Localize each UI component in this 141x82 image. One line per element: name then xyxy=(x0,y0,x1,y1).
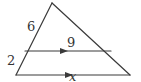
label-lower-left-side: 2 xyxy=(7,54,15,67)
label-base: x xyxy=(69,70,76,82)
left-side xyxy=(16,3,52,75)
right-side xyxy=(52,3,130,75)
label-upper-left-side: 6 xyxy=(27,20,35,33)
label-parallel-segment: 9 xyxy=(67,36,75,49)
